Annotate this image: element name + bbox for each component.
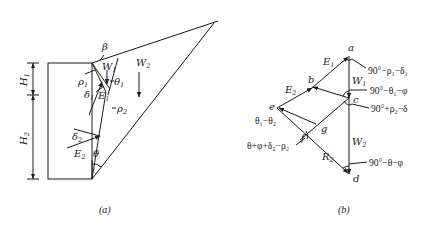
label-w2: W2 <box>136 57 150 70</box>
point-c: c <box>353 94 359 105</box>
point-e: e <box>269 101 275 112</box>
label-theta: θ <box>93 148 99 159</box>
leader-a <box>352 59 366 68</box>
label-h2: H2 <box>18 132 31 146</box>
figure-a: β W1 W2 θ1 ρ1 ρ2 δ1 E1 δ2 E2 θ H1 H2 (a) <box>18 21 218 216</box>
caption-a: (a) <box>99 204 111 216</box>
normal-line-1 <box>85 70 95 74</box>
theta-arc <box>92 164 101 167</box>
label-delta1: δ1 <box>84 89 94 102</box>
angle-label-a: 90°−ρ₁−δ₁ <box>368 66 408 76</box>
label-e1: E1 <box>97 90 109 103</box>
angle-arc-c-upper <box>343 91 349 96</box>
cb-vector <box>313 87 349 98</box>
label-w1-b: W1 <box>352 75 366 88</box>
angle-label-c-upper: 90°−θ₁−φ <box>370 86 408 96</box>
label-rho1: ρ1 <box>77 76 88 89</box>
label-r2-b: R2 <box>321 151 334 164</box>
point-b: b <box>308 74 314 85</box>
label-e2-b: E2 <box>284 84 296 97</box>
diagram-canvas: β W1 W2 θ1 ρ1 ρ2 δ1 E1 δ2 E2 θ H1 H2 (a) <box>0 0 433 228</box>
point-g: g <box>321 123 327 134</box>
point-d: d <box>353 173 359 184</box>
label-w1: W1 <box>102 61 116 74</box>
angle-label-e: θ₁−θ₂ <box>255 116 276 126</box>
caption-b: (b) <box>338 204 350 216</box>
label-e2: E2 <box>73 148 85 161</box>
angle-label-c-lower: 90°+ρ₂−δ <box>371 104 408 114</box>
angle-arc-d <box>343 166 349 168</box>
ge-vector <box>279 108 316 124</box>
failure-plane <box>92 23 214 179</box>
angle-label-f: θ+φ+δ₂−ρ₂ <box>247 141 289 151</box>
label-h1: H1 <box>18 73 31 87</box>
point-a: a <box>348 42 354 53</box>
label-w2-b: W2 <box>352 136 366 149</box>
leader-d <box>349 162 367 164</box>
point-f: f <box>300 132 307 143</box>
label-theta1: θ1 <box>114 76 124 89</box>
label-rho2: ρ2 <box>116 103 127 116</box>
label-delta2: δ2 <box>72 131 82 144</box>
angle-label-d: 90°−θ−φ <box>369 158 404 168</box>
figure-b: a b c d e f g E1 E2 W1 W2 R2 90°−ρ₁−δ₁ 9… <box>247 42 408 216</box>
label-e1-b: E1 <box>322 56 334 69</box>
label-beta: β <box>101 41 108 52</box>
